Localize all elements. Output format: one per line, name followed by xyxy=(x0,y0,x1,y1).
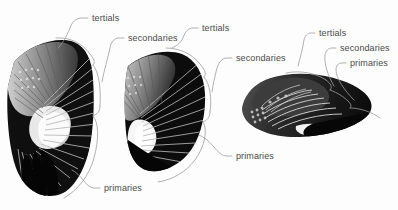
leader-secondaries-2 xyxy=(212,58,232,92)
wing-anatomy-figure: tertials secondaries primaries tertials … xyxy=(0,0,398,210)
leader-tertials-3 xyxy=(298,33,315,66)
label-primaries-wing-partial: primaries xyxy=(236,151,274,161)
label-primaries-wing-spread: primaries xyxy=(104,183,142,193)
leader-primaries-1 xyxy=(72,170,100,188)
label-secondaries-wing-spread: secondaries xyxy=(128,33,178,43)
label-primaries-wing-folded: primaries xyxy=(350,58,388,68)
bracket-wing-partial xyxy=(158,48,211,182)
label-tertials-wing-folded: tertials xyxy=(319,28,346,38)
label-tertials-wing-spread: tertials xyxy=(92,13,119,23)
leader-primaries-2 xyxy=(199,135,232,156)
bracket-wing-folded xyxy=(286,72,380,118)
leader-secondaries-1 xyxy=(102,38,124,82)
leader-tertials-1 xyxy=(58,18,88,48)
label-tertials-wing-partial: tertials xyxy=(202,23,229,33)
label-secondaries-wing-partial: secondaries xyxy=(236,53,286,63)
label-secondaries-wing-folded: secondaries xyxy=(340,43,390,53)
